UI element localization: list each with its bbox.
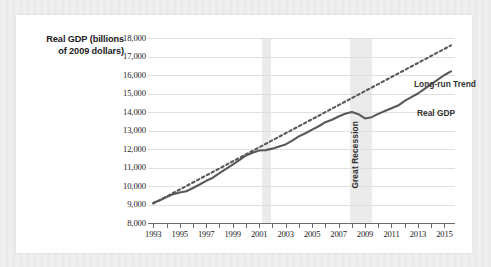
x-tick-1997: [206, 224, 207, 228]
long-run-trend-line: [153, 45, 451, 203]
y-tick-label-8000: 8,000: [110, 218, 146, 228]
y-tick-label-11000: 11,000: [110, 162, 146, 172]
y-tick-label-13000: 13,000: [110, 125, 146, 135]
annotation-real-gdp: Real GDP: [417, 108, 455, 118]
x-tick-2011: [391, 224, 392, 228]
y-tick-label-15000: 15,000: [110, 88, 146, 98]
y-tick-label-18000: 18,000: [110, 33, 146, 43]
y-tick-label-16000: 16,000: [110, 70, 146, 80]
x-tick-2002: [272, 224, 273, 228]
x-tick-2001: [259, 224, 260, 228]
figure-background: Real GDP (billions of 2009 dollars) 8,00…: [0, 0, 491, 267]
chart-card: Real GDP (billions of 2009 dollars) 8,00…: [16, 15, 472, 253]
x-tick-2012: [405, 224, 406, 228]
x-tick-2013: [418, 224, 419, 228]
y-axis-tick-labels: 8,0009,00010,00011,00012,00013,00014,000…: [108, 38, 146, 223]
x-tick-2008: [352, 224, 353, 228]
x-tick-2014: [431, 224, 432, 228]
x-tick-label-2015: 2015: [429, 229, 459, 239]
x-tick-1993: [153, 224, 154, 228]
real-gdp-line: [153, 71, 451, 202]
x-tick-1996: [193, 224, 194, 228]
series-layer: [148, 38, 455, 223]
x-tick-2004: [299, 224, 300, 228]
annotation-great-recession: Great Recession: [350, 121, 360, 189]
x-tick-2006: [325, 224, 326, 228]
x-tick-1995: [180, 224, 181, 228]
x-tick-1999: [233, 224, 234, 228]
x-tick-2005: [312, 224, 313, 228]
x-tick-2003: [286, 224, 287, 228]
x-tick-1994: [167, 224, 168, 228]
x-axis-tick-labels: 1993199519971999200120032005200720092011…: [148, 229, 455, 243]
x-tick-2010: [378, 224, 379, 228]
y-tick-label-10000: 10,000: [110, 181, 146, 191]
y-tick-label-9000: 9,000: [110, 199, 146, 209]
x-tick-1998: [219, 224, 220, 228]
x-tick-2000: [246, 224, 247, 228]
x-tick-2009: [365, 224, 366, 228]
annotation-long-run-trend: Long-run Trend: [414, 79, 476, 89]
y-tick-label-12000: 12,000: [110, 144, 146, 154]
x-tick-2015: [444, 224, 445, 228]
y-tick-label-14000: 14,000: [110, 107, 146, 117]
y-tick-label-17000: 17,000: [110, 51, 146, 61]
x-tick-2007: [339, 224, 340, 228]
